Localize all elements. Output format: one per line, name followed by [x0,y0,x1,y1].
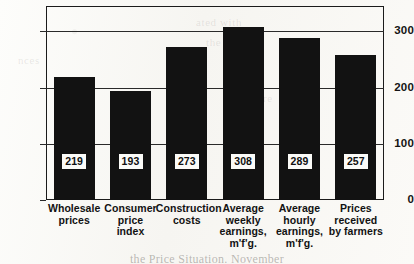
bar-value-label: 289 [287,153,313,170]
bar-value-label: 273 [174,153,200,170]
bar[interactable] [223,27,264,200]
x-axis-category-label: Pricesreceivedby farmers [325,203,387,238]
bar[interactable] [335,55,376,200]
bar-chart: 0100200300 219193273308289257 Wholesalep… [0,0,414,264]
bar-value-label: 219 [61,153,87,170]
bar-value-label: 257 [343,153,369,170]
y-axis-label-200: 200 [380,81,414,93]
bar[interactable] [166,47,207,201]
category-label-line: prices [43,215,105,227]
bar[interactable] [54,77,95,200]
category-label-line: Prices [325,203,387,215]
bars: 219193273308289257 [46,6,384,200]
category-label-line: Average [269,203,331,215]
x-axis-category-label: Averageweeklyearnings,m'f'g. [212,203,274,249]
x-axis-category-label: Constructioncosts [156,203,218,226]
category-label-line: costs [156,215,218,227]
category-label-line: index [100,226,162,238]
category-label-line: by farmers [325,226,387,238]
category-label-line: m'f'g. [269,238,331,250]
x-axis-category-labels: WholesalepricesConsumerpriceindexConstru… [46,203,384,261]
category-label-line: Wholesale [43,203,105,215]
x-axis-category-label: Wholesaleprices [43,203,105,226]
bar[interactable] [110,91,151,200]
y-axis-label-100: 100 [380,137,414,149]
y-tick-0 [40,200,46,201]
bar-value-label: 308 [230,153,256,170]
y-axis-label-300: 300 [380,24,414,36]
category-label-line: m'f'g. [212,238,274,250]
x-axis-category-label: Consumerpriceindex [100,203,162,238]
category-label-line: Consumer [100,203,162,215]
category-label-line: Average [212,203,274,215]
bar[interactable] [279,38,320,201]
category-label-line: Construction [156,203,218,215]
x-axis-category-label: Averagehourlyearnings,m'f'g. [269,203,331,249]
bar-value-label: 193 [118,153,144,170]
